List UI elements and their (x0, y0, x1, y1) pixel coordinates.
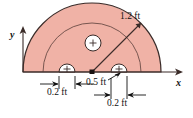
plate-diagram-svg (0, 0, 193, 118)
origin-dot (90, 70, 95, 75)
figure-canvas: 1.2 ft 0.5 ft 0.2 ft 0.2 ft y x (0, 0, 193, 118)
left-hole-offset-label: 0.2 ft (47, 88, 67, 98)
right-hole-offset-label: 0.2 ft (107, 99, 127, 109)
center-offset-label: 0.5 ft (86, 78, 106, 88)
radius-label: 1.2 ft (120, 12, 140, 22)
y-axis-label: y (10, 30, 14, 40)
x-axis-label: x (176, 78, 181, 88)
